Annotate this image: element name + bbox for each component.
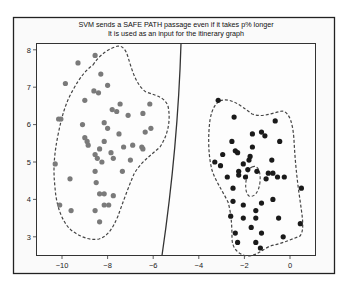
data-point (56, 116, 61, 121)
data-point (118, 101, 123, 106)
data-point (299, 186, 304, 191)
data-point (245, 167, 250, 172)
figure: SVM sends a SAFE PATH passage even if it… (0, 0, 350, 294)
data-point (212, 159, 217, 164)
data-point (93, 169, 98, 174)
data-point (253, 216, 258, 221)
data-point (250, 144, 255, 149)
y-tick-label: 7 (27, 83, 31, 92)
data-point (275, 174, 280, 179)
data-point (254, 169, 259, 174)
data-point (94, 180, 99, 185)
data-point (130, 143, 135, 148)
y-tick-label: 8 (27, 46, 31, 55)
data-point (220, 152, 225, 157)
data-point (86, 143, 91, 148)
data-point (128, 158, 133, 163)
data-point (102, 120, 107, 125)
data-point (270, 197, 275, 202)
data-point (57, 202, 62, 207)
chart-title: SVM sends a SAFE PATH passage even if it… (78, 20, 274, 29)
data-point (63, 81, 68, 86)
data-point (216, 98, 221, 103)
x-tick-label: −8 (103, 261, 112, 270)
data-point (116, 131, 121, 136)
data-point (253, 240, 258, 245)
data-point (277, 139, 282, 144)
data-point (270, 171, 275, 176)
data-point (102, 202, 107, 207)
data-point (143, 130, 148, 135)
data-point (250, 131, 255, 136)
data-point (75, 60, 80, 65)
data-point (96, 90, 101, 95)
data-point (243, 174, 248, 179)
data-point (259, 201, 264, 206)
data-point (111, 156, 116, 161)
data-point (241, 216, 246, 221)
chart-subtitle: It is used as an input for the itinerary… (108, 29, 244, 38)
x-tick-label: 0 (288, 261, 292, 270)
plot-area (37, 44, 316, 256)
data-point (230, 186, 235, 191)
data-point (105, 83, 110, 88)
x-tick-label: −4 (195, 261, 204, 270)
data-point (140, 146, 145, 151)
data-point (105, 126, 110, 131)
data-point (120, 169, 125, 174)
x-tick-label: −2 (240, 261, 249, 270)
data-point (264, 176, 269, 181)
y-tick-label: 6 (27, 120, 31, 129)
data-point (97, 146, 102, 151)
data-point (273, 118, 278, 123)
data-point (229, 139, 234, 144)
data-point (91, 88, 96, 93)
y-tick-label: 3 (27, 233, 31, 242)
data-point (269, 158, 274, 163)
data-point (253, 208, 258, 213)
data-point (97, 191, 102, 196)
data-point (95, 156, 100, 161)
data-point (218, 163, 223, 168)
data-point (148, 126, 153, 131)
data-point (106, 202, 111, 207)
data-point (99, 159, 104, 164)
data-point (249, 225, 254, 230)
data-point (147, 101, 152, 106)
data-point (108, 150, 113, 155)
data-point (80, 122, 85, 127)
data-point (140, 111, 145, 116)
data-point (233, 231, 238, 236)
y-tick-label: 5 (27, 158, 31, 167)
data-point (235, 240, 240, 245)
data-point (97, 219, 102, 224)
data-point (93, 53, 98, 58)
data-point (98, 72, 103, 77)
data-point (121, 144, 126, 149)
data-point (126, 113, 131, 118)
data-point (102, 139, 107, 144)
data-point (281, 234, 286, 239)
data-point (259, 231, 264, 236)
data-point (67, 176, 72, 181)
data-point (225, 174, 230, 179)
data-point (282, 174, 287, 179)
data-point (230, 199, 235, 204)
data-point (228, 214, 233, 219)
data-point (241, 202, 246, 207)
data-point (102, 191, 107, 196)
data-point (258, 245, 263, 250)
data-point (111, 193, 116, 198)
data-point (262, 133, 267, 138)
data-point (232, 115, 237, 120)
data-point (93, 208, 98, 213)
data-point (235, 150, 240, 155)
data-point (69, 208, 74, 213)
data-point (236, 173, 241, 178)
data-point (110, 107, 115, 112)
x-tick-label: −10 (56, 261, 69, 270)
x-tick-label: −6 (149, 261, 158, 270)
data-point (82, 98, 87, 103)
data-point (114, 109, 119, 114)
data-point (276, 216, 281, 221)
